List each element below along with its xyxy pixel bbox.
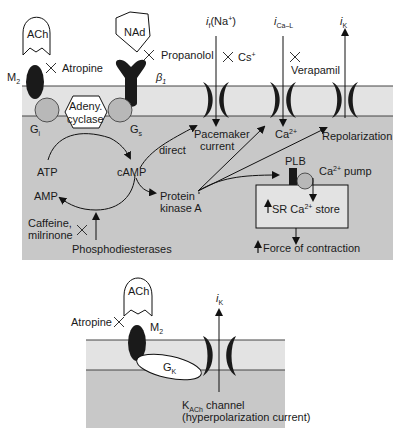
adenyl-label-2: cyclase: [67, 113, 104, 125]
propanolol-label: Propanolol: [161, 49, 214, 61]
cs-label: Cs+: [238, 51, 256, 63]
block-x-icon: [144, 50, 154, 60]
ca-pump-label: Ca2+ pump: [319, 165, 372, 177]
m2-label: M2: [7, 71, 20, 85]
block-x-icon: [290, 52, 300, 62]
nad-label: NAd: [124, 26, 145, 38]
block-x-icon: [114, 317, 124, 327]
ica-label: iCa–L: [274, 15, 293, 29]
amp-label: AMP: [34, 190, 58, 202]
repolarization-label: Repolarization: [322, 130, 392, 142]
bottom-panel: ACh Atropine M2 GK iK KACh channel (hype…: [71, 278, 310, 428]
kach-label-2: (hyperpolarization current): [182, 411, 310, 423]
atropine-label: Atropine: [62, 62, 103, 74]
block-x-icon: [46, 63, 56, 73]
pka-label-2: kinase A: [160, 202, 202, 214]
plb-label: PLB: [285, 155, 306, 167]
phosphodiesterases-label: Phosphodiesterases: [72, 243, 172, 255]
pacemaker-label-1: Pacemaker: [194, 128, 250, 140]
ach-label-bottom: ACh: [128, 285, 149, 297]
m2-receptor-icon: [26, 65, 44, 99]
atp-label: ATP: [37, 166, 58, 178]
pka-label-1: Protein: [160, 190, 195, 202]
ach-ligand-icon: [124, 278, 152, 316]
m2-label-bottom: M2: [150, 321, 163, 335]
force-label: Force of contraction: [263, 242, 360, 254]
caffeine-label-1: Caffeine,: [28, 217, 72, 229]
top-panel: ACh M2 Atropine NAd β1 Propanolol Gi Gs …: [7, 12, 393, 260]
ca-pump-icon: [297, 173, 313, 189]
caffeine-label-2: milrinone: [28, 229, 73, 241]
adenyl-label-1: Adeny.: [69, 100, 102, 112]
ik-label: iK: [340, 15, 347, 29]
if-label: if(Na+): [206, 15, 236, 29]
direct-label: direct: [159, 144, 186, 156]
cardiac-signaling-diagram: ACh M2 Atropine NAd β1 Propanolol Gi Gs …: [0, 0, 403, 438]
block-x-icon: [223, 52, 233, 62]
beta1-label: β1: [155, 71, 166, 85]
ach-label: ACh: [27, 28, 48, 40]
plb-icon: [289, 168, 297, 185]
pacemaker-label-2: current: [200, 140, 234, 152]
verapamil-label: Verapamil: [291, 64, 340, 76]
atropine-label-bottom: Atropine: [71, 316, 112, 328]
gs-protein-icon: [108, 98, 132, 122]
camp-label: cAMP: [117, 166, 146, 178]
ik-label-bottom: iK: [216, 292, 223, 306]
gi-protein-icon: [35, 98, 59, 122]
